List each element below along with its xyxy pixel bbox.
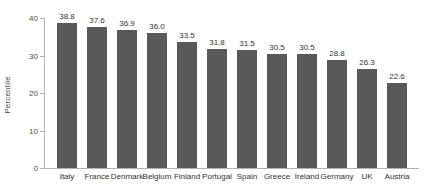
bar bbox=[267, 54, 287, 168]
bar bbox=[327, 60, 347, 168]
bar bbox=[387, 83, 407, 168]
bar-group: 30.5 bbox=[262, 18, 292, 168]
bar bbox=[297, 54, 317, 168]
y-axis-tick-label: 40 bbox=[18, 14, 38, 23]
y-axis-tick bbox=[40, 168, 44, 169]
bar-value-label: 30.5 bbox=[262, 43, 292, 52]
bar-group: 31.5 bbox=[232, 18, 262, 168]
y-axis-title: Percentile bbox=[0, 0, 14, 190]
bar bbox=[57, 23, 77, 169]
y-axis-tick-label: 10 bbox=[18, 126, 38, 135]
y-axis-tick-label: 30 bbox=[18, 51, 38, 60]
bar-value-label: 38.8 bbox=[52, 12, 82, 21]
y-axis-tick-label: 0 bbox=[18, 164, 38, 173]
bar-group: 37.6 bbox=[82, 18, 112, 168]
bar bbox=[87, 27, 107, 168]
bar-value-label: 33.5 bbox=[172, 31, 202, 40]
bar-group: 36.9 bbox=[112, 18, 142, 168]
bar bbox=[237, 50, 257, 168]
bar-group: 26.3 bbox=[352, 18, 382, 168]
bar-value-label: 37.6 bbox=[82, 16, 112, 25]
bar bbox=[207, 49, 227, 168]
bar-group: 33.5 bbox=[172, 18, 202, 168]
x-axis-line bbox=[44, 168, 419, 169]
bar-chart: Percentile 010203040 38.837.636.936.033.… bbox=[0, 0, 424, 190]
bar-value-label: 36.0 bbox=[142, 22, 172, 31]
bar-value-label: 26.3 bbox=[352, 58, 382, 67]
bar-value-label: 31.5 bbox=[232, 39, 262, 48]
bar-value-label: 30.5 bbox=[292, 43, 322, 52]
bar bbox=[147, 33, 167, 168]
bar-value-label: 36.9 bbox=[112, 19, 142, 28]
bar-group: 38.8 bbox=[52, 18, 82, 168]
bar-value-label: 22.6 bbox=[382, 72, 412, 81]
y-axis-tick-label: 20 bbox=[18, 89, 38, 98]
x-axis-tick-label: Austria bbox=[377, 172, 417, 181]
bar bbox=[117, 30, 137, 168]
bar bbox=[177, 42, 197, 168]
bar bbox=[357, 69, 377, 168]
bar-group: 31.8 bbox=[202, 18, 232, 168]
bar-group: 36.0 bbox=[142, 18, 172, 168]
bar-group: 22.6 bbox=[382, 18, 412, 168]
bar-group: 30.5 bbox=[292, 18, 322, 168]
bar-group: 28.8 bbox=[322, 18, 352, 168]
plot-area: 38.837.636.936.033.531.831.530.530.528.8… bbox=[44, 18, 419, 168]
bar-value-label: 31.8 bbox=[202, 38, 232, 47]
bar-value-label: 28.8 bbox=[322, 49, 352, 58]
